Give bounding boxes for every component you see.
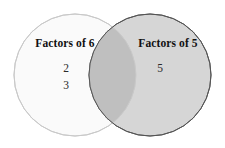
set-label-left: Factors of 6 <box>22 37 108 49</box>
set-label-right: Factors of 5 <box>126 37 210 49</box>
region-left-only[interactable] <box>18 14 102 134</box>
region-right-only[interactable] <box>128 14 208 134</box>
set-member-left-1: 3 <box>58 79 74 91</box>
venn-diagram-figure: Factors of 6 Factors of 5 2 3 5 <box>0 0 225 148</box>
set-member-left-0: 2 <box>58 62 74 74</box>
set-member-right-0: 5 <box>152 62 168 74</box>
